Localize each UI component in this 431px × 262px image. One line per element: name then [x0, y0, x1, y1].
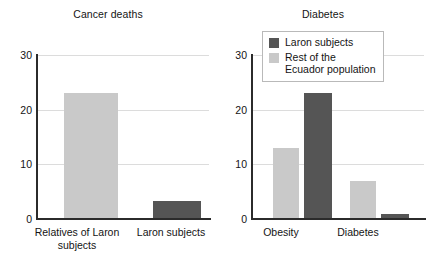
y-axis-ticks: 30 20 10 0 [0, 55, 32, 219]
x-label-obesity: Obesity [239, 226, 323, 239]
bar-obesity-rest-of-ecuador-population [273, 148, 299, 219]
legend: Laron subjects Rest of the Ecuador popul… [262, 31, 384, 82]
gridline-10 [37, 164, 209, 165]
plot-area [37, 55, 209, 219]
x-label-diabetes: Diabetes [316, 226, 400, 239]
legend-swatch-icon-rest-of-ecuador-population [269, 53, 279, 63]
bar-laron-subjects [153, 201, 201, 219]
gridline-20 [37, 110, 209, 111]
bar-relatives-of-laron-subjects [64, 93, 118, 219]
y-tick-30: 30 [221, 49, 247, 61]
y-tick-20: 20 [221, 104, 247, 116]
legend-item-rest-of-ecuador-population: Rest of the Ecuador population [269, 51, 376, 76]
y-tick-10: 10 [6, 158, 32, 170]
gridline-30 [37, 55, 209, 56]
chart-panel-cancer-deaths: Cancer deaths 30 20 10 0 Relatives of La… [0, 0, 216, 262]
y-axis-line [251, 54, 253, 220]
y-tick-0: 0 [6, 213, 32, 225]
legend-label-rest-of-ecuador-population: Rest of the Ecuador population [285, 51, 376, 76]
legend-swatch-icon-laron-subjects [269, 38, 279, 48]
legend-item-laron-subjects: Laron subjects [269, 36, 376, 49]
chart-panel-diabetes: Diabetes 30 20 10 0 Laron subjects [215, 0, 431, 262]
chart-title: Cancer deaths [0, 8, 216, 20]
x-axis-line [36, 218, 211, 220]
y-tick-0: 0 [221, 213, 247, 225]
chart-title: Diabetes [215, 8, 431, 20]
bar-obesity-laron-subjects [304, 93, 332, 219]
y-tick-20: 20 [6, 104, 32, 116]
legend-label-laron-subjects: Laron subjects [285, 36, 353, 49]
gridline-20 [252, 110, 424, 111]
x-axis-line [251, 218, 426, 220]
x-label-relatives-of-laron-subjects: Relatives of Laron subjects [22, 226, 132, 251]
bar-diabetes-rest-of-ecuador-population [350, 181, 376, 219]
x-label-laron-subjects: Laron subjects [130, 226, 212, 239]
y-axis-line [36, 54, 38, 220]
y-axis-ticks: 30 20 10 0 [215, 55, 247, 219]
y-tick-10: 10 [221, 158, 247, 170]
y-tick-30: 30 [6, 49, 32, 61]
figure: Cancer deaths 30 20 10 0 Relatives of La… [0, 0, 431, 262]
